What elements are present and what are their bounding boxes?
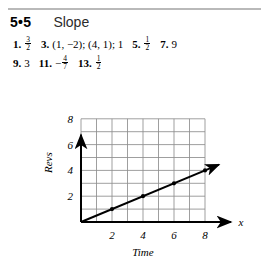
- y-tick-label: 4: [68, 164, 74, 176]
- answer-number: 3.: [41, 38, 49, 50]
- x-axis-end-label: x: [238, 216, 244, 228]
- answer-fraction: 32: [25, 36, 31, 52]
- answer-item: 1.32: [13, 36, 32, 52]
- y-tick-label: 8: [68, 113, 74, 125]
- answers-list: 1.323.(1, −2); (4, 1); 15.127.9 9.311.−4…: [13, 34, 258, 72]
- answer-item: 9.3: [13, 57, 30, 69]
- data-point: [172, 181, 176, 185]
- header-divider: [8, 8, 261, 10]
- answer-fraction: 12: [96, 55, 102, 71]
- answers-row-1: 1.323.(1, −2); (4, 1); 15.127.9: [13, 34, 258, 53]
- answer-number: 1.: [13, 38, 21, 50]
- answer-number: 13.: [78, 57, 92, 69]
- fraction-denominator: 7: [62, 62, 68, 71]
- y-axis-title: Revs: [42, 152, 54, 174]
- x-tick-label: 2: [109, 229, 115, 241]
- answer-item: 11.−47: [39, 55, 69, 71]
- slope-graph: 24682468xTimeRevs: [40, 78, 269, 270]
- data-point: [203, 168, 207, 172]
- fraction-numerator: 1: [144, 36, 150, 44]
- fraction-numerator: 1: [96, 55, 102, 63]
- answer-number: 11.: [39, 57, 52, 69]
- y-tick-label: 6: [68, 139, 74, 151]
- fraction-denominator: 2: [25, 43, 31, 52]
- x-tick-label: 6: [171, 229, 177, 241]
- data-line: [81, 165, 219, 222]
- grid-lines: [81, 119, 205, 222]
- answer-fraction: 12: [144, 36, 150, 52]
- answer-value: 3: [24, 57, 30, 69]
- fraction-numerator: 4: [62, 55, 68, 63]
- x-axis-title: Time: [132, 246, 154, 258]
- answer-item: 7.9: [160, 38, 177, 50]
- answer-item: 5.12: [132, 36, 151, 52]
- data-point: [110, 207, 114, 211]
- fraction-denominator: 2: [144, 43, 150, 52]
- fraction-numerator: 3: [25, 36, 31, 44]
- answer-fraction: 47: [62, 55, 68, 71]
- answer-value: (1, −2); (4, 1); 1: [52, 38, 123, 50]
- answers-row-2: 9.311.−4713.12: [13, 53, 258, 72]
- page-title: Slope: [53, 14, 89, 30]
- y-tick-label: 2: [68, 190, 74, 202]
- answer-number: 9.: [13, 57, 21, 69]
- answer-number: 7.: [160, 38, 168, 50]
- x-tick-label: 8: [202, 229, 208, 241]
- graph-canvas: 24682468xTimeRevs: [40, 78, 269, 270]
- answer-item: 3.(1, −2); (4, 1); 1: [41, 38, 123, 50]
- data-point: [141, 194, 145, 198]
- answer-sign: −: [55, 57, 61, 69]
- answer-value: 9: [171, 38, 177, 50]
- answer-key-page: 5•5 Slope 1.323.(1, −2); (4, 1); 15.127.…: [0, 0, 269, 270]
- answer-item: 13.12: [78, 55, 103, 71]
- x-tick-label: 4: [140, 229, 146, 241]
- answer-number: 5.: [132, 38, 140, 50]
- page-header: 5•5 Slope: [10, 14, 89, 30]
- section-number: 5•5: [10, 14, 31, 30]
- fraction-denominator: 2: [96, 62, 102, 71]
